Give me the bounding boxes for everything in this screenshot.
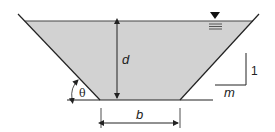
slope-vertical-label: 1 (251, 64, 258, 78)
channel-diagram: d b θ 1 m (0, 0, 275, 132)
angle-label: θ (79, 87, 86, 100)
width-label: b (136, 107, 143, 122)
angle-arc (72, 80, 78, 99)
slope-horizontal-label: m (224, 85, 235, 100)
water-area (25, 21, 253, 100)
depth-label: d (122, 52, 130, 67)
